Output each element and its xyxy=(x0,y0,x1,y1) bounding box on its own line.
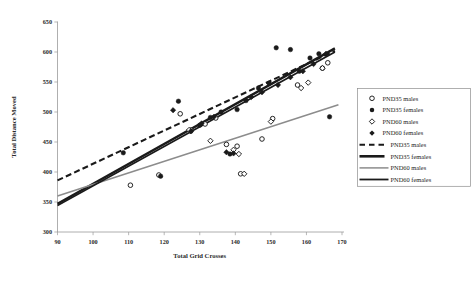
data-point-pnd60-males xyxy=(306,80,311,85)
y-tick-label: 500 xyxy=(43,108,52,115)
data-point-pnd35-males xyxy=(128,183,133,188)
x-tick-label: 170 xyxy=(337,238,346,245)
legend-label: PND35 females xyxy=(383,106,424,113)
legend-symbol-filled-circle xyxy=(370,108,375,113)
y-tick-label: 300 xyxy=(43,228,52,235)
x-tick-label: 150 xyxy=(266,238,275,245)
trendline-pnd35-females xyxy=(58,48,335,203)
data-point-pnd60-females xyxy=(170,108,175,113)
data-point-pnd35-females xyxy=(121,151,126,156)
legend-label: PND35 males xyxy=(391,141,427,148)
legend-label: PND60 males xyxy=(391,164,427,171)
y-tick-label: 450 xyxy=(43,138,52,145)
data-point-pnd35-males xyxy=(178,112,183,117)
legend-box xyxy=(358,89,471,187)
chart-legend: PND35 malesPND35 femalesPND60 malesPND60… xyxy=(358,89,471,187)
data-point-pnd60-males xyxy=(208,138,213,143)
legend-symbol-open-circle xyxy=(370,96,375,101)
y-tick-label: 350 xyxy=(43,198,52,205)
legend-label: PND35 males xyxy=(383,95,419,102)
x-tick-label: 110 xyxy=(124,238,133,245)
scatter-chart: 300350400450500550600650 901001101201301… xyxy=(0,0,473,283)
y-axis-title: Total Distance Moved xyxy=(10,96,17,158)
y-tick-label: 600 xyxy=(43,48,52,55)
x-tick-label: 140 xyxy=(231,238,240,245)
legend-label: PND60 females xyxy=(391,176,432,183)
data-point-pnd35-females xyxy=(288,47,293,52)
data-point-pnd35-females xyxy=(219,110,224,115)
data-point-pnd35-females xyxy=(244,98,249,103)
data-point-pnd35-males xyxy=(325,61,330,66)
data-point-pnd35-males xyxy=(260,137,265,142)
y-tick-label: 650 xyxy=(43,18,52,25)
chart-canvas: 300350400450500550600650 901001101201301… xyxy=(0,0,473,283)
y-axis: 300350400450500550600650 xyxy=(43,18,58,235)
y-tick-label: 400 xyxy=(43,168,52,175)
x-tick-label: 90 xyxy=(54,238,60,245)
data-point-pnd35-males xyxy=(235,144,240,149)
legend-label: PND35 females xyxy=(391,153,432,160)
data-point-pnd35-females xyxy=(176,99,181,104)
trendline-pnd35-males xyxy=(58,51,335,181)
data-point-pnd35-females xyxy=(274,46,279,51)
legend-label: PND60 females xyxy=(383,129,424,136)
data-point-pnd35-females xyxy=(267,81,272,86)
y-tick-label: 550 xyxy=(43,78,52,85)
trendline-pnd60-females xyxy=(58,52,335,206)
x-axis-title: Total Grid Crosses xyxy=(173,252,226,259)
x-tick-label: 100 xyxy=(88,238,97,245)
data-point-pnd35-females xyxy=(158,174,163,179)
data-point-pnd35-females xyxy=(235,107,240,112)
trendlines xyxy=(58,48,339,205)
legend-label: PND60 males xyxy=(383,118,419,125)
data-point-pnd35-females xyxy=(327,115,332,120)
x-axis: 90100110120130140150160170 xyxy=(54,232,346,245)
data-point-pnd60-males xyxy=(236,151,241,156)
data-point-pnd35-males xyxy=(224,142,229,147)
data-point-pnd35-females xyxy=(317,52,322,57)
data-point-pnd35-females xyxy=(308,56,313,61)
x-tick-label: 160 xyxy=(302,238,311,245)
x-tick-label: 120 xyxy=(160,238,169,245)
data-point-pnd35-females xyxy=(256,86,261,91)
x-tick-label: 130 xyxy=(195,238,204,245)
